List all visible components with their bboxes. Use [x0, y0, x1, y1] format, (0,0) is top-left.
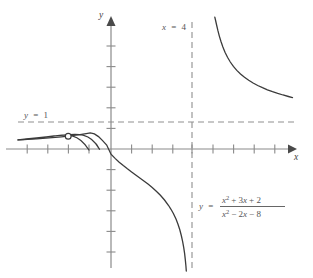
- equation-lhs: y =: [198, 201, 213, 211]
- equation-denominator: x2− 2x− 8: [221, 208, 261, 219]
- x-axis-label: x: [293, 152, 299, 162]
- equation-den-exp: 2: [226, 208, 229, 215]
- equation-lhs-var: y: [198, 201, 203, 211]
- equation-den-end: − 8: [249, 209, 261, 219]
- horizontal-asymptote-label: y = 1: [23, 110, 48, 120]
- equation-numerator: x2+ 3x+ 2: [221, 194, 261, 205]
- vertical-asymptote-label-var: x: [161, 22, 166, 32]
- y-axis-label: y: [98, 10, 104, 20]
- y-axis-arrowhead: [107, 16, 116, 26]
- equation-equals: =: [208, 201, 213, 211]
- vertical-asymptote-label-value: 4: [182, 22, 187, 32]
- equation-num-end: + 2: [249, 195, 261, 205]
- curve-main-branch: [18, 133, 186, 271]
- equation-num-x2: x: [242, 195, 247, 205]
- rational-function-figure: y x x = 4 y = 1 y = x2+ 3x+ 2 x2− 2x− 8: [0, 0, 313, 278]
- removable-discontinuity-hole: [65, 133, 71, 139]
- vertical-asymptote-label-equals: =: [171, 22, 176, 32]
- equation-den-x2: x: [242, 209, 247, 219]
- equation-den-mid: − 2: [231, 209, 243, 219]
- equation-num-mid: + 3: [231, 195, 243, 205]
- graph-canvas: y x x = 4 y = 1 y = x2+ 3x+ 2 x2− 2x− 8: [0, 0, 313, 278]
- equation-num-exp: 2: [226, 194, 229, 201]
- horizontal-asymptote-label-value: 1: [44, 110, 49, 120]
- horizontal-asymptote-label-var: y: [23, 110, 28, 120]
- horizontal-asymptote-label-equals: =: [33, 110, 38, 120]
- equation-label: y = x2+ 3x+ 2 x2− 2x− 8: [198, 194, 285, 219]
- vertical-asymptote-label: x = 4: [161, 22, 187, 32]
- curve-right-branch: [215, 17, 293, 97]
